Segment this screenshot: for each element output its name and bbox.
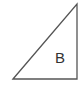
triangle-diagram: B <box>0 0 81 85</box>
right-triangle <box>13 4 77 79</box>
triangle-label: B <box>55 49 65 66</box>
